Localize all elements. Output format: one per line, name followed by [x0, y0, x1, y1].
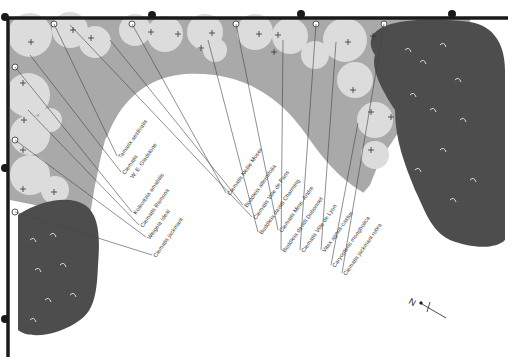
planting-plan-diagram: N	[0, 0, 515, 357]
north-arrow-icon	[420, 302, 446, 318]
